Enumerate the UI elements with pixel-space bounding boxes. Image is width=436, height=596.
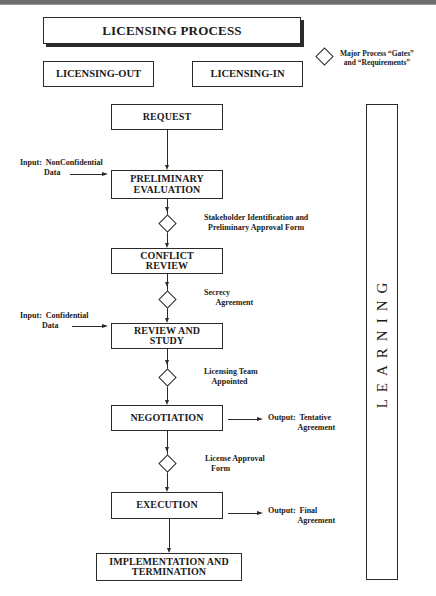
output-arrow-line [228, 513, 258, 514]
arrow-right-icon [257, 417, 263, 421]
top-rule [0, 0, 436, 5]
input-arrow-line [72, 326, 102, 327]
gate-diamond-icon [158, 454, 176, 472]
arrow-down-icon [167, 548, 171, 553]
step-label: IMPLEMENTATION AND TERMINATION [109, 557, 229, 578]
page-title: LICENSING PROCESS [102, 24, 242, 38]
step-label: REQUEST [143, 112, 192, 123]
arrow-down-icon [165, 318, 169, 323]
gate-diamond-icon [158, 214, 176, 232]
step-preliminary-evaluation: PRELIMINARY EVALUATION [111, 170, 223, 199]
gate-diamond-icon [158, 290, 176, 308]
arrow-right-icon [102, 172, 108, 176]
learning-sidebar: LEARNING [366, 104, 398, 580]
arrow-down-icon [165, 282, 169, 287]
gate-diamond-icon [158, 368, 176, 386]
step-implementation-and-termination: IMPLEMENTATION AND TERMINATION [96, 553, 242, 581]
step-conflict-review: CONFLICT REVIEW [111, 248, 223, 274]
step-label: CONFLICT REVIEW [140, 251, 194, 272]
arrow-down-icon [165, 447, 169, 452]
step-label: NEGOTIATION [130, 413, 203, 424]
arrow-down-icon [165, 487, 169, 492]
licensing-in-label: LICENSING-IN [210, 68, 284, 79]
step-label: PRELIMINARY EVALUATION [130, 174, 204, 195]
gate-label: Licensing Team Appointed [204, 367, 258, 386]
licensing-in-box: LICENSING-IN [192, 61, 303, 87]
arrow-down-icon [165, 360, 169, 365]
arrow-down-icon [165, 243, 169, 248]
diamond-icon [315, 47, 333, 65]
gate-label: Secrecy Agreement [204, 288, 253, 307]
connector [169, 519, 170, 548]
learning-label: LEARNING [374, 276, 391, 409]
title-box: LICENSING PROCESS [43, 17, 301, 44]
gate-label: License Approval Form [205, 454, 265, 473]
licensing-out-box: LICENSING-OUT [43, 61, 154, 87]
connector [167, 130, 168, 165]
step-label: EXECUTION [136, 500, 197, 511]
output-label: Output: Tentative Agreement [268, 413, 335, 432]
input-label: Input: Confidential Data [20, 311, 88, 330]
arrow-right-icon [102, 324, 108, 328]
arrow-down-icon [165, 207, 169, 212]
legend-text: Major Process “Gates” and “Requirements” [340, 49, 414, 67]
input-arrow-line [70, 174, 102, 175]
licensing-out-label: LICENSING-OUT [56, 68, 141, 79]
step-request: REQUEST [111, 104, 223, 130]
output-label: Output: Final Agreement [268, 506, 335, 525]
step-negotiation: NEGOTIATION [111, 405, 223, 431]
step-execution: EXECUTION [111, 492, 223, 519]
output-arrow-line [228, 419, 258, 420]
arrow-right-icon [257, 511, 263, 515]
step-label: REVIEW AND STUDY [134, 326, 200, 347]
arrow-down-icon [165, 400, 169, 405]
gate-label: Stakeholder Identification and Prelimina… [204, 213, 308, 232]
step-review-and-study: REVIEW AND STUDY [111, 323, 223, 349]
arrow-down-icon [165, 165, 169, 170]
